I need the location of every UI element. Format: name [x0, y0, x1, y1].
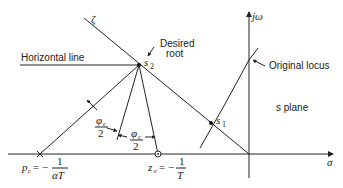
- svg-text:z: z: [147, 161, 153, 173]
- s2-sub: 2: [150, 62, 154, 71]
- pole-label: p c = − 1 αT: [21, 155, 68, 181]
- s1-label: s: [216, 114, 220, 126]
- sigma-label: σ: [327, 156, 333, 168]
- svg-text:φ: φ: [96, 114, 102, 126]
- phi-arrow-3: [118, 135, 127, 137]
- svg-text:T: T: [177, 169, 184, 181]
- line-s2-to-zero: [139, 65, 158, 154]
- svg-text:c: c: [28, 167, 32, 175]
- s-plane-label: s plane: [276, 102, 309, 113]
- original-locus-pointer: [253, 60, 265, 66]
- jw-label: jω: [250, 10, 263, 22]
- phi-arrow-2: [107, 128, 117, 131]
- s1-point: [209, 121, 213, 125]
- s2-point: [137, 63, 141, 67]
- svg-text:1: 1: [179, 155, 185, 167]
- svg-text:c: c: [154, 167, 158, 175]
- svg-text:p: p: [21, 161, 28, 173]
- zero-marker: [155, 151, 161, 157]
- svg-text:φ: φ: [131, 127, 137, 139]
- phi-arrow-1: [87, 100, 97, 110]
- s2-label: s: [144, 56, 148, 68]
- svg-text:1: 1: [57, 155, 63, 167]
- s-plane-diagram: ζ Horizontal line Desired root s 2 s 1 j…: [0, 0, 343, 188]
- s1-sub: 1: [222, 120, 226, 129]
- svg-text:= −: = −: [33, 161, 48, 173]
- svg-text:= −: = −: [159, 161, 174, 173]
- svg-text:αT: αT: [52, 169, 65, 181]
- zeta-label: ζ: [91, 13, 97, 26]
- svg-text:2: 2: [98, 127, 104, 139]
- horizontal-line-label: Horizontal line: [21, 52, 85, 63]
- original-locus-label: Original locus: [269, 60, 330, 71]
- zero-label: z c = − 1 T: [147, 155, 186, 181]
- desired-root-label-2: root: [166, 48, 183, 59]
- line-s2-to-pole: [40, 65, 139, 154]
- phi-half-left: φ c 2: [95, 114, 108, 139]
- svg-text:2: 2: [133, 140, 139, 152]
- desired-root-pointer: [148, 47, 154, 56]
- phi-half-right: φ c 2: [130, 127, 143, 152]
